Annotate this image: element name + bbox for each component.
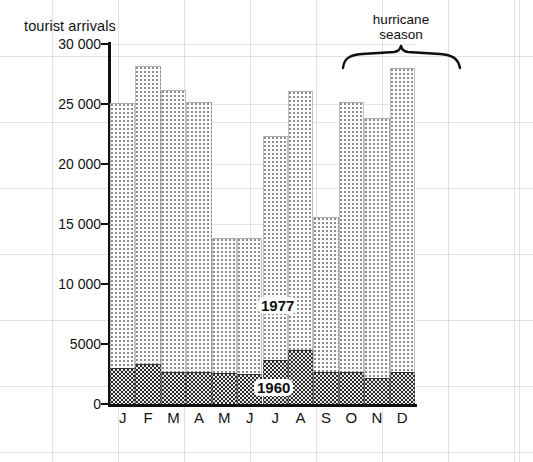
bar-group[interactable] [288, 44, 313, 404]
bar-1960[interactable] [135, 364, 160, 404]
series-label-1960: 1960 [254, 379, 293, 396]
bar-group[interactable] [186, 44, 211, 404]
bar-1977[interactable] [161, 90, 186, 404]
bar-1960[interactable] [339, 372, 364, 404]
y-axis-tick [101, 283, 110, 285]
bar-group[interactable] [263, 44, 288, 404]
bar-group[interactable] [390, 44, 415, 404]
bar-1960[interactable] [212, 373, 237, 404]
tourist-arrivals-bar-chart: tourist arrivals 0500010 00015 00020 000… [0, 0, 533, 462]
bar-1960[interactable] [110, 368, 135, 404]
y-axis-label: 25 000 [5, 96, 101, 112]
bar-1977[interactable] [390, 68, 415, 404]
bar-1960[interactable] [186, 372, 211, 404]
bar-1977[interactable] [110, 103, 135, 404]
x-axis-label: J [237, 409, 262, 426]
bar-group[interactable] [161, 44, 186, 404]
y-axis-label: 20 000 [5, 156, 101, 172]
y-axis-tick [101, 163, 110, 165]
bar-1960[interactable] [161, 372, 186, 404]
bar-group[interactable] [110, 44, 135, 404]
bar-1960[interactable] [364, 378, 389, 404]
bar-1960[interactable] [390, 372, 415, 404]
bar-1977[interactable] [186, 102, 211, 404]
y-axis-label: 0 [5, 396, 101, 412]
x-axis-label: J [110, 409, 135, 426]
x-axis-line [108, 404, 417, 407]
x-axis-label: A [288, 409, 313, 426]
series-label-1977: 1977 [258, 297, 297, 314]
bar-group[interactable] [135, 44, 160, 404]
y-axis-label: 15 000 [5, 216, 101, 232]
bar-1977[interactable] [339, 102, 364, 404]
x-axis-label: N [364, 409, 389, 426]
x-axis-label: F [135, 409, 160, 426]
y-axis-tick [101, 343, 110, 345]
y-axis-label: 10 000 [5, 276, 101, 292]
y-axis-label: 30 000 [5, 36, 101, 52]
bar-group[interactable] [313, 44, 338, 404]
x-axis-label: J [263, 409, 288, 426]
plot-area: 0500010 00015 00020 00025 00030 000 [110, 44, 415, 404]
x-axis-label: D [390, 409, 415, 426]
x-axis-label: M [161, 409, 186, 426]
y-axis-tick [101, 43, 110, 45]
hurricane-season-bracket-icon [340, 44, 464, 70]
y-axis-title: tourist arrivals [24, 18, 116, 34]
hurricane-season-line1: hurricane [344, 12, 458, 27]
y-axis-tick [101, 403, 110, 405]
bar-1977[interactable] [135, 66, 160, 404]
x-axis-label: M [212, 409, 237, 426]
y-axis-tick [101, 103, 110, 105]
bar-1960[interactable] [313, 372, 338, 404]
x-axis-label: O [339, 409, 364, 426]
bar-group[interactable] [339, 44, 364, 404]
x-axis-label: S [313, 409, 338, 426]
y-axis-tick [101, 223, 110, 225]
bar-1977[interactable] [364, 118, 389, 404]
y-axis-label: 5000 [5, 336, 101, 352]
bar-1960[interactable] [288, 350, 313, 404]
bar-group[interactable] [364, 44, 389, 404]
hurricane-season-annotation: hurricane season [344, 12, 458, 42]
bar-group[interactable] [237, 44, 262, 404]
bar-group[interactable] [212, 44, 237, 404]
hurricane-season-line2: season [344, 27, 458, 42]
x-axis-label: A [186, 409, 211, 426]
